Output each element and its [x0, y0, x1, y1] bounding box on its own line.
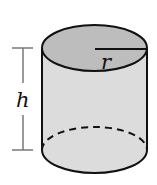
height-label: h: [16, 88, 30, 112]
cylinder-diagram: r h: [0, 0, 157, 185]
